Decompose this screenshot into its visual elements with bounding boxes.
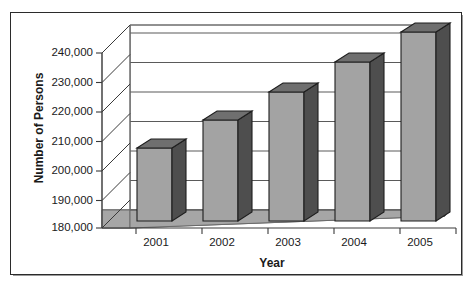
- y-tick-label: 220,000: [51, 105, 93, 117]
- bar-2005[interactable]: [401, 23, 450, 221]
- y-tick-labels: 240,000 230,000 220,000 210,000 200,000 …: [51, 46, 93, 233]
- bar-chart: 240,000 230,000 220,000 210,000 200,000 …: [0, 0, 473, 286]
- x-axis-title: Year: [259, 256, 285, 270]
- x-axis: [102, 228, 456, 234]
- y-tick-label: 240,000: [51, 46, 93, 58]
- x-tick-label: 2001: [143, 236, 169, 248]
- x-tick-label: 2005: [407, 236, 433, 248]
- y-axis-title: Number of Persons: [32, 72, 46, 183]
- x-tick-labels: 2001 2002 2003 2004 2005: [143, 236, 433, 248]
- x-tick-label: 2003: [275, 236, 301, 248]
- y-tick-label: 200,000: [51, 164, 93, 176]
- bar-2003[interactable]: [269, 83, 318, 221]
- y-tick-label: 230,000: [51, 76, 93, 88]
- y-tick-label: 190,000: [51, 194, 93, 206]
- x-tick-label: 2004: [341, 236, 367, 248]
- y-tick-label: 210,000: [51, 135, 93, 147]
- bar-2001[interactable]: [137, 139, 186, 221]
- bar-2002[interactable]: [203, 111, 252, 221]
- bar-2004[interactable]: [335, 53, 384, 221]
- y-tick-label: 180,000: [51, 221, 93, 233]
- x-tick-label: 2002: [209, 236, 235, 248]
- chart-canvas: 240,000 230,000 220,000 210,000 200,000 …: [0, 0, 473, 286]
